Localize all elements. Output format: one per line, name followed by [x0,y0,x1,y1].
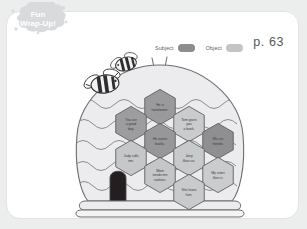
legend: Subject Object [155,42,243,54]
hex-joey-likes-us-line-2: likes us. [183,159,195,163]
legend-swatch-subject [178,44,195,52]
hex-mom-sends-me-cookies-line-3: cookies. [154,178,167,182]
hex-you-are-a-good-boy-line-3: boy. [128,127,134,131]
hex-he-is-handsome-line-2: handsome. [152,108,169,112]
hex-my-sister-likes-it-line-2: likes it. [213,176,223,180]
legend-swatch-object [226,44,243,52]
legend-label-object: Object [206,45,222,51]
hex-tom-gives-you-a-book-line-3: a book. [183,127,194,131]
worksheet-card: He ishandsome.You area goodboy.Tom gives… [6,11,299,219]
hex-judy-calls-me-line-2: me. [128,159,134,163]
hive-entrance [110,171,126,201]
legend-label-subject: Subject [155,45,174,51]
hex-he-wants-books-line-2: books. [155,142,165,146]
hive-base [76,201,244,217]
hex-she-loves-him-line-2: him. [186,193,192,197]
hex-we-are-friends-line-2: friends. [212,142,223,146]
legend-item-subject: Subject [155,44,195,52]
page-number: p. 63 [253,35,284,49]
legend-item-object: Object [206,44,243,52]
